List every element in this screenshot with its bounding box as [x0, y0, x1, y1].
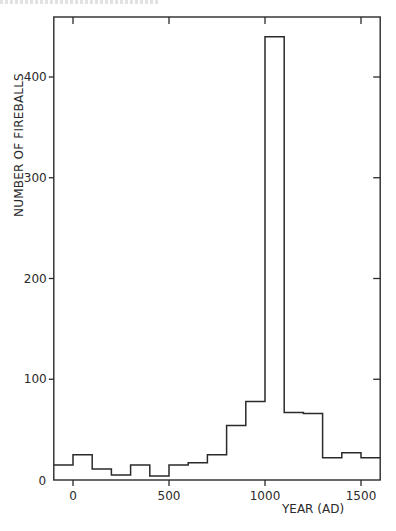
plot-frame — [54, 17, 380, 480]
x-tick-label: 500 — [158, 489, 181, 503]
x-tick-label: 1500 — [346, 489, 377, 503]
y-tick-label: 100 — [24, 372, 47, 386]
y-tick-label: 200 — [24, 272, 47, 286]
x-tick-label: 0 — [69, 489, 77, 503]
y-tick-label: 400 — [24, 70, 47, 84]
x-axis-label: YEAR (AD) — [282, 502, 344, 516]
histogram-step-line — [54, 37, 380, 476]
histogram-plot — [0, 0, 396, 531]
x-tick-label: 1000 — [250, 489, 281, 503]
y-tick-label: 0 — [38, 474, 46, 488]
y-tick-label: 300 — [24, 171, 47, 185]
